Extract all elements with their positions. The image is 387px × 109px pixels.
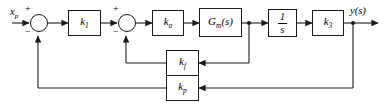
block-gm: Gm(s) [199, 8, 242, 37]
block-ka-label: ka [164, 16, 173, 30]
block-k3: k3 [312, 10, 344, 36]
block-ka: ka [152, 10, 184, 36]
block-kp-label: kp [178, 81, 187, 95]
sum1-plus-sign: + [25, 4, 31, 14]
block-kf: kf [166, 50, 199, 76]
summing-junction-1 [30, 14, 48, 32]
sum1-minus-sign: − [25, 27, 31, 37]
block-gm-label: Gm(s) [208, 16, 233, 30]
junction-node-output [351, 21, 355, 25]
block-kf-label: kf [179, 56, 186, 70]
block-kp: kp [166, 75, 199, 101]
block-k1: k1 [68, 10, 101, 36]
block-integrator: 1 s [268, 9, 297, 37]
integrator-fraction: 1 s [278, 12, 287, 35]
block-diagram: + − + − xp y(s) k1 ka Gm(s) 1 s k3 kf kp [0, 0, 387, 109]
junction-node-gm-output [247, 21, 251, 25]
input-signal-label: xp [10, 7, 18, 20]
integrator-numerator: 1 [278, 12, 287, 23]
block-k1-label: k1 [80, 16, 89, 30]
summing-junction-2 [118, 14, 136, 32]
integrator-denominator: s [279, 24, 287, 35]
block-k3-label: k3 [324, 16, 333, 30]
sum2-plus-sign: + [113, 4, 119, 14]
sum2-minus-sign: − [113, 27, 119, 37]
output-signal-label: y(s) [350, 6, 366, 17]
